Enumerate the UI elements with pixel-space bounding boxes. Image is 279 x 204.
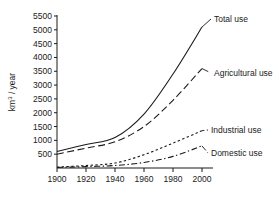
series-leader-lines bbox=[202, 19, 211, 153]
chart-canvas: 5001000150020002500300035004000450050005… bbox=[0, 0, 279, 204]
series-line-agricultural-use bbox=[57, 69, 202, 155]
x-tick-label: 1940 bbox=[106, 174, 125, 184]
leader-line bbox=[202, 19, 211, 27]
x-tick-label: 1960 bbox=[135, 174, 154, 184]
series-label-industrial-use: Industrial use bbox=[211, 125, 262, 135]
y-tick-label: 5500 bbox=[33, 11, 52, 21]
x-tick-label: 1920 bbox=[77, 174, 96, 184]
y-axis-group: 5001000150020002500300035004000450050005… bbox=[33, 11, 57, 168]
water-use-line-chart: 5001000150020002500300035004000450050005… bbox=[0, 0, 279, 204]
y-tick-label: 2500 bbox=[33, 94, 52, 104]
y-tick-label: 4500 bbox=[33, 39, 52, 49]
y-tick-label: 3000 bbox=[33, 80, 52, 90]
x-axis-tick-labels: 190019201940196019802000 bbox=[48, 174, 212, 184]
series-label-group: Total useAgricultural useIndustrial useD… bbox=[211, 14, 273, 158]
data-series-group bbox=[57, 27, 202, 167]
x-axis-group: 190019201940196019802000 bbox=[48, 168, 213, 184]
y-tick-label: 2000 bbox=[33, 108, 52, 118]
y-axis-title: km3 / year bbox=[7, 73, 17, 111]
y-axis-title-group: km3 / year bbox=[7, 73, 17, 111]
x-tick-label: 1900 bbox=[48, 174, 67, 184]
x-tick-label: 2000 bbox=[193, 174, 212, 184]
x-tick-label: 1980 bbox=[164, 174, 183, 184]
y-tick-label: 1000 bbox=[33, 135, 52, 145]
y-tick-label: 500 bbox=[38, 149, 52, 159]
series-label-agricultural-use: Agricultural use bbox=[214, 68, 273, 78]
y-tick-label: 3500 bbox=[33, 66, 52, 76]
leader-line bbox=[202, 130, 208, 131]
y-axis-tick-labels: 5001000150020002500300035004000450050005… bbox=[33, 11, 52, 159]
series-label-total-use: Total use bbox=[214, 14, 248, 24]
y-tick-label: 5000 bbox=[33, 25, 52, 35]
series-label-domestic-use: Domestic use bbox=[211, 148, 263, 158]
leader-line bbox=[202, 146, 208, 153]
leader-line bbox=[202, 69, 211, 73]
series-line-total-use bbox=[57, 27, 202, 151]
y-tick-label: 4000 bbox=[33, 52, 52, 62]
y-tick-label: 1500 bbox=[33, 122, 52, 132]
x-axis-ticks bbox=[57, 168, 202, 172]
series-line-industrial-use bbox=[57, 131, 202, 167]
